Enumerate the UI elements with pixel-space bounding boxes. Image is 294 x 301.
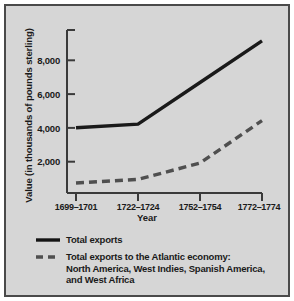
figure-root: Value (in thousands of pounds sterling) … — [0, 0, 294, 301]
chart-legend: Total exports Total exports to the Atlan… — [36, 234, 286, 289]
x-tick-label-1752-1754: 1752–1754 — [179, 202, 221, 212]
legend-label-line: Total exports to the Atlantic economy: — [66, 251, 286, 263]
x-tick-label-1722-1724: 1722–1724 — [117, 202, 159, 212]
legend-swatch-dashed — [36, 255, 60, 259]
legend-label-total-exports: Total exports — [66, 234, 286, 246]
legend-label-line: and West Africa — [66, 274, 286, 286]
legend-label-line: Total exports — [66, 234, 286, 246]
series-atlantic-economy-line — [76, 121, 262, 183]
y-tick-label-4000: 4,000 — [16, 123, 60, 134]
series-total-exports — [76, 41, 262, 128]
y-tick-label-6000: 6,000 — [16, 89, 60, 100]
legend-item-total-exports: Total exports — [36, 234, 286, 248]
legend-label-atlantic-economy: Total exports to the Atlantic economy: N… — [66, 251, 286, 286]
y-tick-label-8000: 8,000 — [16, 55, 60, 66]
x-tick-label-1699-1701: 1699–1701 — [55, 202, 97, 212]
legend-label-line: North America, West Indies, Spanish Amer… — [66, 263, 286, 275]
legend-swatch-solid — [36, 238, 60, 242]
y-axis-title: Value (in thousands of pounds sterling) — [23, 26, 34, 206]
series-total-exports-line — [76, 90, 262, 136]
y-tick-label-2000: 2,000 — [16, 156, 60, 167]
x-axis-title: Year — [0, 212, 294, 223]
legend-item-atlantic-economy: Total exports to the Atlantic economy: N… — [36, 251, 286, 286]
x-tick-label-1772-1774: 1772–1774 — [238, 202, 280, 212]
